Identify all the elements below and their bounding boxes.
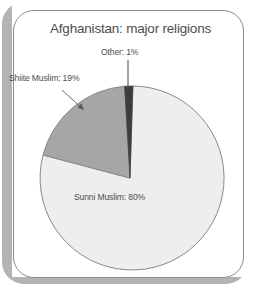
- chart-page: Afghanistan: major religions Other: 1% S…: [0, 0, 261, 291]
- pie-svg: [0, 0, 261, 291]
- slice-label-shiite-muslim: Shiite Muslim: 19%: [9, 73, 79, 83]
- pie-chart: Other: 1% Shiite Muslim: 19% Sunni Musli…: [0, 0, 261, 291]
- slice-label-sunni-muslim: Sunni Muslim: 80%: [74, 192, 145, 202]
- slice-label-other: Other: 1%: [101, 47, 138, 57]
